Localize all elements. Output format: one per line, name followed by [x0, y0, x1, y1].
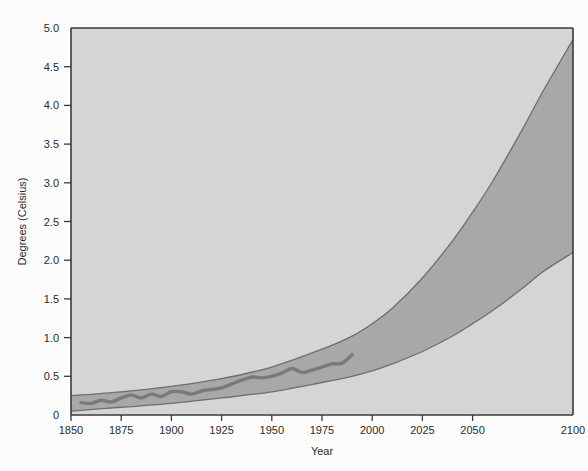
y-tick-label: 0.5: [44, 370, 59, 382]
x-tick-label: 2050: [460, 424, 484, 436]
y-tick-label: 3.5: [44, 138, 59, 150]
y-tick-label: 5.0: [44, 22, 59, 34]
y-tick-label: 2.0: [44, 254, 59, 266]
y-tick-label: 1.0: [44, 332, 59, 344]
x-tick-label: 1875: [109, 424, 133, 436]
x-tick-label: 1925: [209, 424, 233, 436]
y-tick-label: 3.0: [44, 177, 59, 189]
x-tick-label: 1900: [159, 424, 183, 436]
x-tick-label: 2025: [410, 424, 434, 436]
y-tick-label: 4.0: [44, 99, 59, 111]
y-tick-label: 1.5: [44, 293, 59, 305]
x-axis-title: Year: [311, 445, 334, 457]
climate-projection-chart: 1850187519001925195019752000202520502100…: [0, 0, 588, 471]
y-tick-label: 4.5: [44, 61, 59, 73]
x-tick-label: 2100: [561, 424, 585, 436]
y-axis-title: Degrees (Celsius): [16, 177, 28, 265]
x-tick-label: 1950: [260, 424, 284, 436]
x-tick-label: 1850: [59, 424, 83, 436]
chart-canvas: 1850187519001925195019752000202520502100…: [0, 0, 588, 471]
y-tick-label: 2.5: [44, 216, 59, 228]
y-tick-label: 0: [53, 409, 59, 421]
x-tick-label: 2000: [360, 424, 384, 436]
x-tick-label: 1975: [310, 424, 334, 436]
